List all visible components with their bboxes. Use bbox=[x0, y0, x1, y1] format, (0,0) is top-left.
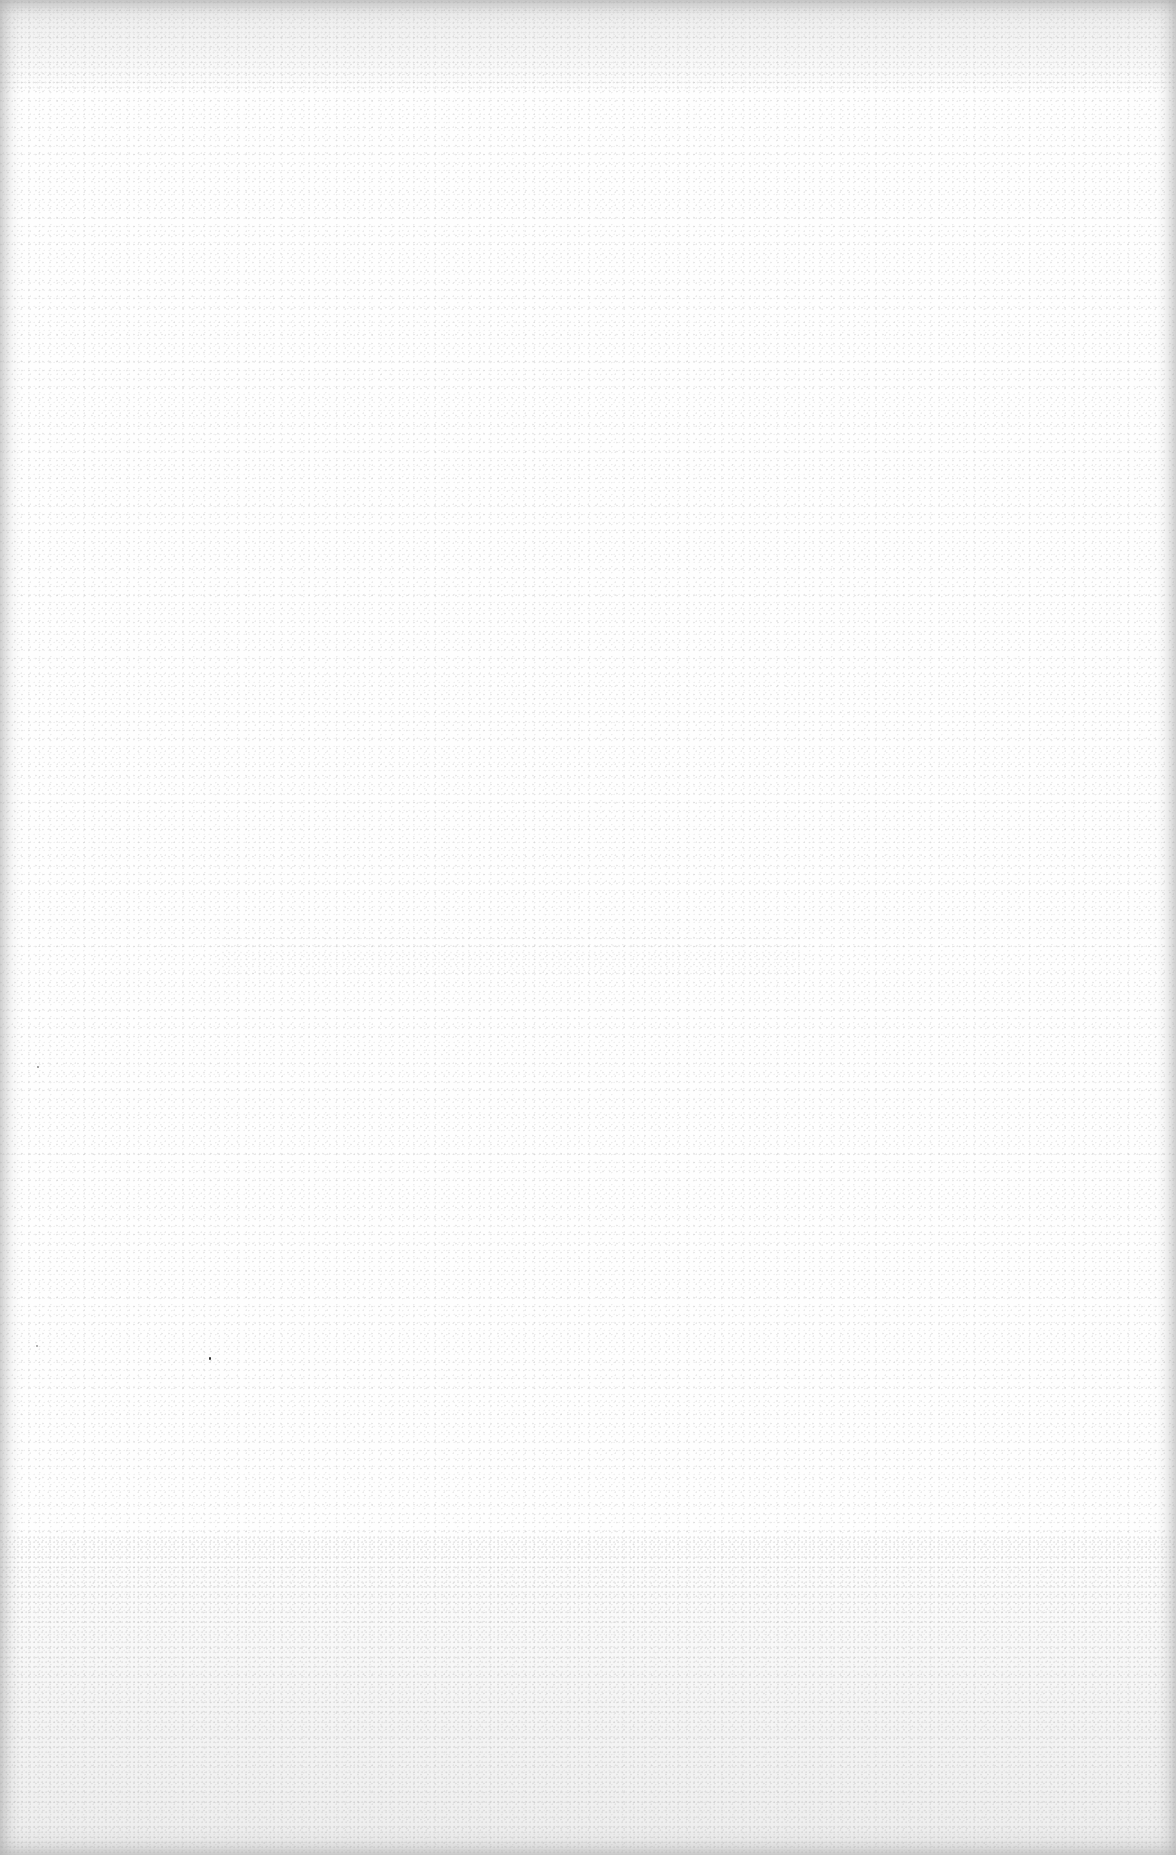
dust-speck bbox=[37, 1066, 39, 1068]
paper-noise-texture bbox=[0, 0, 1176, 1855]
bleed-through-artifact bbox=[220, 935, 800, 975]
blank-scanned-page bbox=[0, 0, 1176, 1855]
bottom-scan-grain bbox=[0, 1535, 1176, 1855]
scan-edge-vignette bbox=[0, 0, 1176, 1855]
top-scan-grain bbox=[0, 0, 1176, 90]
dust-speck bbox=[209, 1357, 211, 1360]
dust-speck bbox=[36, 1345, 38, 1347]
